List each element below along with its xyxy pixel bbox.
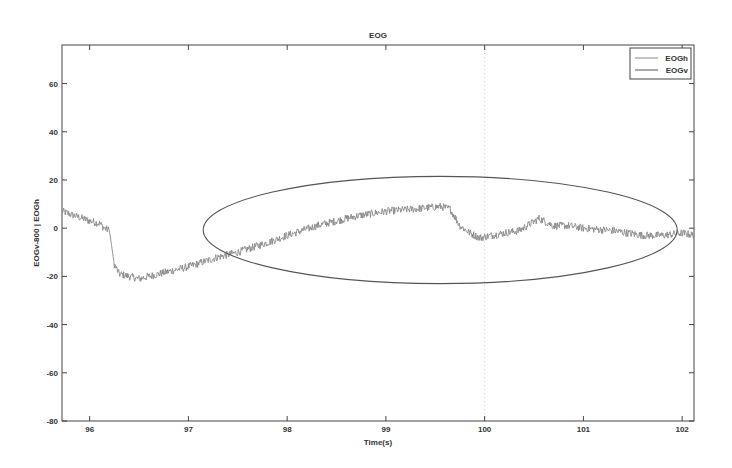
x-tick-label: 100: [478, 425, 492, 434]
legend: EOGhEOGv: [630, 48, 691, 79]
x-axis-label: Time(s): [364, 438, 393, 447]
x-tick-label: 102: [675, 425, 689, 434]
y-tick-label: -80: [46, 417, 58, 426]
y-tick-label: 20: [49, 176, 58, 185]
eog-chart: EOG 969798991001011026040200-20-40-60-80…: [0, 0, 732, 468]
x-tick-label: 101: [577, 425, 591, 434]
y-tick-label: -40: [46, 321, 58, 330]
legend-label: EOGh: [665, 54, 688, 63]
x-tick-label: 99: [381, 425, 390, 434]
y-axis-label: EOGv-800 | EOGh: [32, 199, 41, 267]
legend-label: EOGv: [666, 66, 689, 75]
y-tick-label: -20: [46, 272, 58, 281]
chart-title: EOG: [369, 31, 387, 40]
y-tick-label: 0: [54, 224, 59, 233]
y-tick-label: 40: [49, 128, 58, 137]
plot-area: 969798991001011026040200-20-40-60-80: [46, 45, 694, 434]
x-tick-label: 98: [283, 425, 292, 434]
y-tick-label: 60: [49, 80, 58, 89]
y-tick-label: -60: [46, 369, 58, 378]
x-tick-label: 97: [184, 425, 193, 434]
x-tick-label: 96: [85, 425, 94, 434]
